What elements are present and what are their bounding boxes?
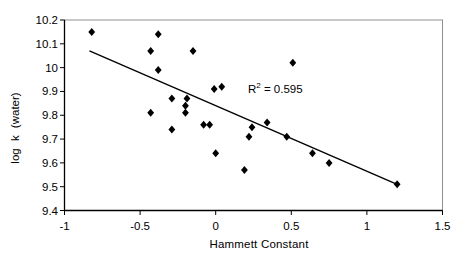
data-point-marker	[249, 123, 256, 131]
data-point-marker	[155, 66, 162, 74]
data-point-marker	[289, 59, 296, 67]
r-squared-value: = 0.595	[261, 83, 303, 95]
data-point-marker	[246, 133, 253, 141]
data-point-marker	[309, 149, 316, 157]
data-point-marker	[182, 102, 189, 110]
data-point-marker	[211, 85, 218, 93]
y-tick-label: 9.7	[42, 133, 58, 145]
data-point-marker	[168, 95, 175, 103]
data-point-marker	[206, 121, 213, 129]
x-tick-label: 0	[212, 220, 218, 232]
y-tick-label: 9.9	[42, 85, 58, 97]
data-point-marker	[182, 109, 189, 117]
data-point-marker	[147, 47, 154, 55]
y-tick-label: 9.6	[42, 157, 58, 169]
data-point-marker	[88, 28, 95, 36]
data-point-marker	[200, 121, 207, 129]
y-tick-label: 10.2	[36, 14, 58, 26]
data-point-marker	[326, 159, 333, 167]
data-point-marker	[155, 30, 162, 38]
x-tick-label: 0.5	[283, 220, 299, 232]
y-axis-title: log k (water)	[9, 68, 23, 188]
x-tick-label: -1	[59, 220, 69, 232]
data-point-marker	[168, 126, 175, 134]
chart-figure: -1-0.500.511.510.210.1109.99.89.79.69.59…	[0, 0, 468, 263]
x-axis-title: Hammett Constant	[139, 238, 379, 250]
data-point-marker	[190, 47, 197, 55]
y-tick-label: 9.8	[42, 109, 58, 121]
y-tick-label: 10	[45, 62, 58, 74]
x-tick-label: -0.5	[130, 220, 150, 232]
data-point-marker	[241, 166, 248, 174]
x-tick-label: 1	[364, 220, 370, 232]
axis-lines	[65, 20, 443, 211]
data-point-marker	[218, 83, 225, 91]
plot-frame	[65, 20, 443, 211]
x-tick-label: 1.5	[435, 220, 451, 232]
y-tick-label: 9.5	[42, 181, 58, 193]
data-point-marker	[264, 118, 271, 126]
y-tick-label: 9.4	[42, 205, 59, 217]
trend-line	[89, 51, 397, 184]
y-tick-label: 10.1	[36, 38, 58, 50]
scatter-plot-canvas: -1-0.500.511.510.210.1109.99.89.79.69.59…	[0, 0, 468, 263]
data-point-marker	[212, 149, 219, 157]
data-point-marker	[147, 109, 154, 117]
r-squared-annotation: R2 = 0.595	[248, 83, 303, 95]
data-point-marker	[184, 95, 191, 103]
